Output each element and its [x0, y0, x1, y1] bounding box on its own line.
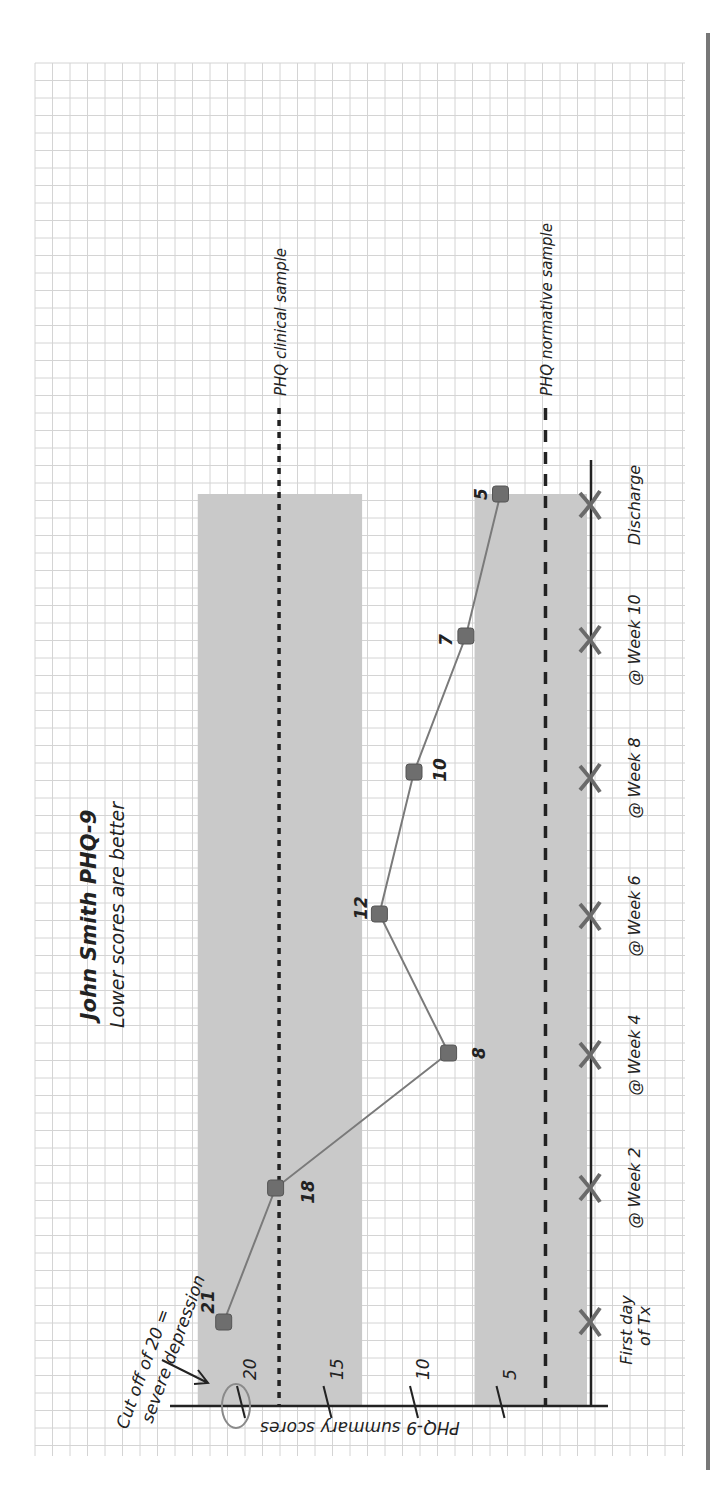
data-point-label: 12 [351, 896, 371, 920]
data-point-label: 10 [430, 758, 450, 782]
data-point-label: 7 [436, 634, 456, 646]
tick-label: 5 [500, 1369, 520, 1380]
category-label: @ Week 8 [625, 737, 644, 818]
data-point-marker [493, 486, 509, 502]
category-label: Discharge [625, 465, 644, 546]
tick-label: 20 [240, 1358, 260, 1380]
shaded-band-1 [475, 494, 587, 1406]
page-edge [706, 33, 710, 1470]
data-point-label: 8 [469, 1047, 489, 1059]
category-label: @ Week 2 [625, 1147, 644, 1228]
score-axis-label: PHQ-9 summary scores [260, 1418, 460, 1438]
reference-line-label: PHQ normative sample [538, 223, 556, 396]
data-point-marker [441, 1045, 457, 1061]
chart-subtitle: Lower scores are better [106, 801, 128, 1028]
data-point-marker [216, 1314, 232, 1330]
reference-line-label: PHQ clinical sample [272, 248, 290, 396]
category-label: @ Week 4 [625, 1014, 644, 1095]
shaded-bands [198, 494, 587, 1406]
phq9-chart: PHQ clinical samplePHQ normative sample … [0, 0, 712, 1497]
tick-mark [410, 1386, 418, 1418]
tick-label: 15 [327, 1358, 347, 1380]
data-point-marker [268, 1180, 284, 1196]
category-label: @ Week 6 [625, 875, 644, 956]
tick-label: 10 [413, 1358, 433, 1380]
data-point-marker [458, 628, 474, 644]
data-point-marker [371, 906, 387, 922]
category-label: First day [617, 1295, 636, 1365]
category-label-line2: of Tx [635, 1306, 654, 1346]
data-point-marker [406, 764, 422, 780]
data-point-label: 18 [298, 1180, 318, 1204]
category-label: @ Week 10 [625, 594, 644, 685]
chart-title: John Smith PHQ-9 [77, 810, 101, 1025]
data-point-label: 5 [471, 488, 491, 500]
